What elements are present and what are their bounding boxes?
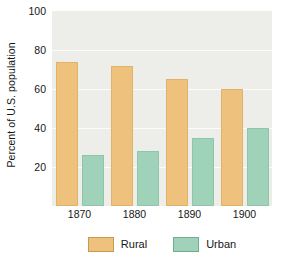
x-tick-label: 1900 [233,208,256,220]
legend-swatch-urban-icon [173,237,199,252]
legend-entry-urban[interactable]: Urban [173,237,236,252]
plot-area [52,11,272,206]
bar-urban-1890 [192,138,214,206]
y-axis-tick-labels: 20406080100 [22,0,50,210]
legend-label: Urban [206,238,236,250]
bar-rural-1870 [56,62,78,206]
bar-rural-1900 [221,89,243,206]
y-tick-label: 80 [34,44,46,56]
bar-chart: Percent of U.S. population 20406080100 1… [0,0,286,261]
bar-rural-1890 [166,79,188,206]
x-axis-tick-labels: 1870188018901900 [52,208,272,226]
y-tick-label: 40 [34,122,46,134]
x-tick-label: 1870 [68,208,91,220]
x-tick-label: 1880 [123,208,146,220]
bar-rural-1880 [111,66,133,206]
legend-swatch-rural-icon [88,237,114,252]
bar-urban-1870 [82,155,104,206]
bars-layer [52,11,272,206]
y-tick-label: 20 [34,161,46,173]
y-tick-label: 100 [28,5,46,17]
legend-entry-rural[interactable]: Rural [88,237,147,252]
y-axis-title-text: Percent of U.S. population [5,42,17,167]
chart-legend: RuralUrban [52,232,272,256]
y-tick-label: 60 [34,83,46,95]
bar-urban-1900 [247,128,269,206]
x-tick-label: 1890 [178,208,201,220]
legend-label: Rural [121,238,147,250]
bar-urban-1880 [137,151,159,206]
y-axis-title: Percent of U.S. population [0,0,22,210]
